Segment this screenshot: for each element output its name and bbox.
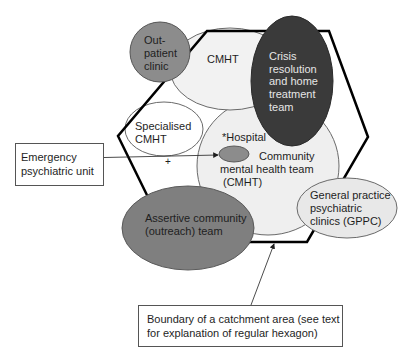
boundary-callout: Boundary of a catchment area (see text f…: [138, 305, 343, 347]
emergency-unit-callout: Emergency psychiatric unit: [15, 143, 104, 186]
hospital-ellipse: [219, 146, 249, 162]
cmht-top-label: CMHT: [207, 53, 239, 65]
boundary-arrow: [251, 244, 274, 305]
boundary-callout-line-1: Boundary of a catchment area (see text: [147, 312, 342, 326]
plus-marker: +: [165, 156, 171, 167]
emergency-callout-line-1: Emergency: [21, 150, 103, 164]
emergency-callout-line-2: psychiatric unit: [21, 164, 103, 178]
hospital-label: *Hospital: [222, 131, 266, 143]
boundary-callout-line-2: for explanation of regular hexagon): [147, 326, 342, 340]
